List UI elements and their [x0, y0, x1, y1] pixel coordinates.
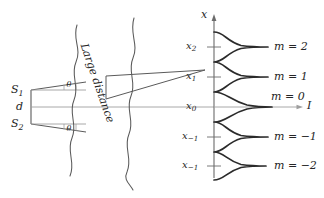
order-label-m2: m = 2: [274, 41, 308, 52]
order-label-mm2: m = −2: [274, 160, 317, 171]
ray-lower-outer: [31, 124, 86, 132]
label-source-s2-sub: 2: [19, 123, 24, 132]
label-source-s1-sub: 1: [19, 89, 24, 98]
label-axis-x: x: [201, 9, 207, 20]
order-label-mm1: m = −1: [274, 131, 317, 142]
break-line-right: [126, 18, 135, 190]
label-source-s1-base: S: [11, 83, 19, 96]
tick-label-x0-sub: 0: [192, 104, 197, 113]
order-label-m1: m = 1: [274, 71, 308, 82]
tick-label-x1-sub: 1: [192, 74, 197, 83]
label-slit-separation-d: d: [16, 101, 23, 112]
label-source-s1: S1: [11, 84, 24, 97]
intensity-fringe-curve: [214, 32, 272, 180]
tick-label-xm1: x−1: [182, 131, 198, 143]
tick-label-x0: x0: [186, 101, 196, 113]
order-label-m0: m = 0: [271, 91, 305, 102]
label-theta-upper: θ: [67, 81, 72, 89]
break-line-left: [70, 25, 78, 176]
label-theta-lower: θ: [67, 125, 72, 133]
tick-label-xm2-sub: −1: [188, 163, 199, 172]
ray-upper-outer: [31, 82, 86, 90]
tick-label-x2: x2: [186, 41, 196, 53]
tick-label-x2-sub: 2: [192, 44, 197, 53]
tick-label-xm1-sub: −1: [188, 134, 199, 143]
tick-label-x1: x1: [186, 71, 196, 83]
x-axis-arrowhead: [212, 14, 217, 21]
label-axis-i: I: [307, 100, 311, 111]
tick-label-xm2: x−1: [182, 160, 198, 172]
label-source-s2: S2: [11, 118, 24, 131]
i-axis-arrowhead: [297, 105, 304, 110]
label-source-s2-base: S: [11, 117, 19, 130]
double-slit-figure: S1 d S2 θ θ Large distance x I x2 x1 x0 …: [0, 0, 324, 198]
